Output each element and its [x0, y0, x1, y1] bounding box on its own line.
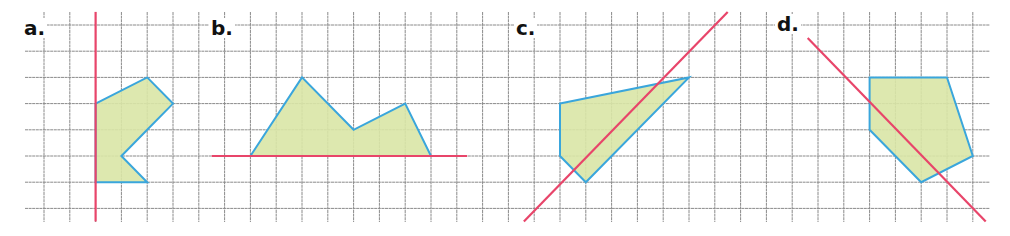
shape-polygon-a	[96, 77, 173, 182]
panel-label-a: a.	[22, 18, 47, 38]
grid-canvas	[0, 0, 1010, 236]
shape-polygon-b	[250, 77, 431, 156]
shape-polygon-d	[870, 77, 973, 182]
symmetry-exercise-sheet: a. b. c. d.	[0, 0, 1010, 236]
mirror-line-c	[524, 12, 728, 222]
mirror-lines-layer	[96, 12, 986, 222]
panel-label-c: c.	[514, 18, 537, 38]
square-grid	[25, 12, 990, 222]
panel-label-d: d.	[775, 14, 801, 34]
panel-label-b: b.	[209, 18, 235, 38]
